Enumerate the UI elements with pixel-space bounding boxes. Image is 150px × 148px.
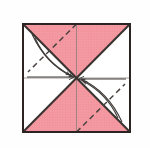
- fold-diagram-container: [0, 0, 150, 148]
- origami-fold-diagram: [0, 0, 150, 148]
- paper-body: [23, 24, 130, 132]
